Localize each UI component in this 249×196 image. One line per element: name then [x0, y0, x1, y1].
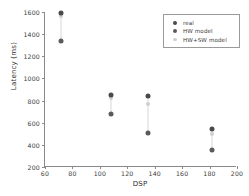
x-tick-200	[237, 166, 238, 169]
data-point-hw	[145, 130, 150, 135]
legend: real HW model HW+SW model	[163, 14, 240, 48]
legend-item-hwsw-model: HW+SW model	[167, 36, 235, 44]
y-ticklabel-800: 800	[28, 97, 40, 104]
data-point-real	[59, 10, 64, 15]
x-ticklabel-180: 180	[203, 170, 215, 177]
legend-item-real: real	[167, 19, 235, 27]
circle-marker-icon	[173, 38, 177, 42]
y-tick-1400	[42, 34, 45, 35]
x-tick-100	[100, 166, 101, 169]
data-point-hwsw	[146, 102, 150, 106]
y-ticklabel-1400: 1400	[23, 31, 40, 38]
x-ticklabel-100: 100	[94, 170, 106, 177]
x-tick-80	[72, 166, 73, 169]
x-axis-label: DSP	[44, 180, 236, 188]
y-tick-1200	[42, 56, 45, 57]
y-ticklabel-600: 600	[28, 119, 40, 126]
x-ticklabel-140: 140	[148, 170, 160, 177]
y-tick-1000	[42, 78, 45, 79]
y-ticklabel-1000: 1000	[23, 75, 40, 82]
data-point-hw	[210, 148, 215, 153]
data-point-hw	[59, 39, 64, 44]
y-ticklabel-1200: 1200	[23, 53, 40, 60]
y-ticklabel-400: 400	[28, 141, 40, 148]
x-ticklabel-80: 80	[68, 170, 76, 177]
y-tick-600	[42, 123, 45, 124]
circle-marker-icon	[173, 29, 177, 33]
legend-label-real: real	[183, 20, 194, 26]
legend-marker-cell	[167, 21, 183, 25]
data-point-hw	[108, 111, 113, 116]
x-tick-60	[45, 166, 46, 169]
data-point-hwsw	[210, 132, 214, 136]
x-ticklabel-60: 60	[41, 170, 49, 177]
data-point-real	[145, 94, 150, 99]
y-ticklabel-1600: 1600	[23, 9, 40, 16]
x-tick-160	[182, 166, 183, 169]
x-tick-180	[210, 166, 211, 169]
y-ticklabel-200: 200	[28, 164, 40, 171]
legend-marker-cell	[167, 38, 183, 42]
y-axis-label: Latency (ms)	[10, 21, 18, 111]
x-ticklabel-200: 200	[231, 170, 243, 177]
x-tick-120	[127, 166, 128, 169]
data-point-real	[210, 126, 215, 131]
circle-marker-icon	[173, 21, 177, 25]
scatter-chart-figure: 1600 1400 1200 1000 800 600 400 200 60 8…	[0, 0, 249, 196]
legend-marker-cell	[167, 29, 183, 33]
y-tick-400	[42, 145, 45, 146]
legend-item-hw-model: HW model	[167, 27, 235, 35]
legend-label-hw-model: HW model	[183, 28, 213, 34]
x-ticklabel-160: 160	[176, 170, 188, 177]
y-tick-1600	[42, 12, 45, 13]
y-tick-800	[42, 101, 45, 102]
x-tick-140	[155, 166, 156, 169]
x-ticklabel-120: 120	[121, 170, 133, 177]
legend-label-hwsw-model: HW+SW model	[183, 37, 227, 43]
data-point-real	[108, 93, 113, 98]
